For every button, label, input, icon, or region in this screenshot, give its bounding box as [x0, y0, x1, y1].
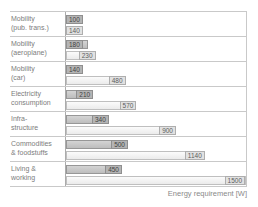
bar-value-label: 900 — [159, 126, 176, 135]
category-label-line: Living & — [11, 164, 65, 173]
category-label-line: Infra- — [11, 114, 65, 123]
bar-dark: 100 — [66, 15, 78, 24]
category-label-line: Commodities — [11, 139, 65, 148]
bar-cell: 140480 — [65, 62, 247, 86]
bar-value-label: 1140 — [185, 151, 205, 160]
bar-value-label: 140 — [66, 65, 83, 74]
bar-light: 1140 — [66, 151, 203, 160]
bar-value-label: 100 — [66, 15, 83, 24]
chart-row: Living &working4501500 — [10, 162, 247, 187]
bar-dark: 210 — [66, 90, 91, 99]
x-axis-label: Energy requirement [W] — [168, 189, 247, 198]
bar-value-label: 180 — [66, 40, 83, 49]
bar-light: 570 — [66, 101, 134, 110]
category-label: Living &working — [10, 162, 65, 186]
bar-light: 900 — [66, 126, 174, 135]
category-label-line: Mobility — [11, 14, 65, 23]
bar-value-label: 230 — [79, 51, 96, 60]
bar-cell: 180230 — [65, 37, 247, 61]
category-label-line: Electricity — [11, 89, 65, 98]
bar-cell: 210570 — [65, 87, 247, 111]
bar-dark: 140 — [66, 65, 83, 74]
category-label: Infra-structure — [10, 112, 65, 136]
category-label: Mobility(pub. trans.) — [10, 12, 65, 36]
category-label-line: consumption — [11, 98, 65, 107]
bar-cell: 4501500 — [65, 162, 247, 186]
chart-row: Commodities& foodstuffs5001140 — [10, 137, 247, 162]
category-label-line: & foodstuffs — [11, 148, 65, 157]
bar-value-label: 450 — [105, 165, 122, 174]
bar-cell: 100140 — [65, 12, 247, 36]
category-label-line: working — [11, 173, 65, 182]
category-label-line: Mobility — [11, 39, 65, 48]
category-label-line: structure — [11, 123, 65, 132]
bar-value-label: 1500 — [225, 176, 245, 185]
chart-rows: Mobility(pub. trans.)100140Mobility(aero… — [10, 11, 247, 187]
bar-dark: 340 — [66, 115, 107, 124]
bar-dark: 450 — [66, 165, 120, 174]
bar-dark: 180 — [66, 40, 88, 49]
bar-value-label: 570 — [120, 101, 137, 110]
bar-value-label: 340 — [92, 115, 109, 124]
chart-row: Electricityconsumption210570 — [10, 87, 247, 112]
chart-row: Mobility(pub. trans.)100140 — [10, 12, 247, 37]
bar-value-label: 210 — [76, 90, 93, 99]
category-label: Electricityconsumption — [10, 87, 65, 111]
category-label: Mobility(aeroplane) — [10, 37, 65, 61]
energy-requirement-bar-chart: Mobility(pub. trans.)100140Mobility(aero… — [0, 0, 258, 207]
bar-value-label: 500 — [111, 140, 128, 149]
category-label: Commodities& foodstuffs — [10, 137, 65, 161]
category-label-line: (aeroplane) — [11, 48, 65, 57]
chart-row: Mobility(car)140480 — [10, 62, 247, 87]
bar-value-label: 140 — [66, 26, 83, 35]
category-label-line: (car) — [11, 73, 65, 82]
category-label: Mobility(car) — [10, 62, 65, 86]
bar-value-label: 480 — [109, 76, 126, 85]
bar-cell: 5001140 — [65, 137, 247, 161]
chart-row: Infra-structure340900 — [10, 112, 247, 137]
chart-row: Mobility(aeroplane)180230 — [10, 37, 247, 62]
bar-light: 140 — [66, 26, 83, 35]
bar-cell: 340900 — [65, 112, 247, 136]
bar-dark: 500 — [66, 140, 126, 149]
bar-light: 1500 — [66, 176, 246, 185]
category-label-line: Mobility — [11, 64, 65, 73]
category-label-line: (pub. trans.) — [11, 23, 65, 32]
bar-light: 480 — [66, 76, 124, 85]
bar-light: 230 — [66, 51, 94, 60]
